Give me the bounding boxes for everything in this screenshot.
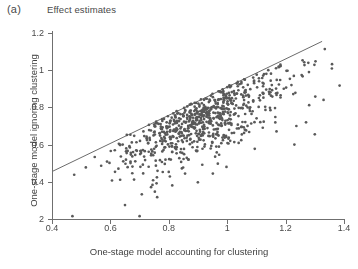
x-tick-label: 0.6 bbox=[90, 223, 130, 233]
x-axis-title: One-stage model accounting for clusterin… bbox=[0, 246, 358, 257]
figure-title: Effect estimates bbox=[47, 4, 116, 15]
y-tick-mark bbox=[48, 107, 52, 108]
x-axis-line bbox=[51, 219, 345, 220]
x-tick-label: 1.4 bbox=[324, 223, 358, 233]
scatter-plot-canvas bbox=[52, 33, 344, 219]
figure-panel-a: (a) Effect estimates 1.210.80.60.42 0.40… bbox=[0, 0, 358, 269]
x-tick-label: 1.2 bbox=[266, 223, 306, 233]
y-tick-mark bbox=[48, 33, 52, 34]
x-tick-label: 1 bbox=[207, 223, 247, 233]
x-tick-label: 0.8 bbox=[149, 223, 189, 233]
y-tick-mark bbox=[48, 70, 52, 71]
y-tick-mark bbox=[48, 145, 52, 146]
y-axis-line bbox=[52, 31, 53, 220]
y-axis-title: One-stage model ignoring clustering bbox=[28, 36, 39, 226]
y-axis-title-holder: One-stage model ignoring clustering bbox=[0, 0, 20, 250]
y-tick-mark bbox=[48, 182, 52, 183]
